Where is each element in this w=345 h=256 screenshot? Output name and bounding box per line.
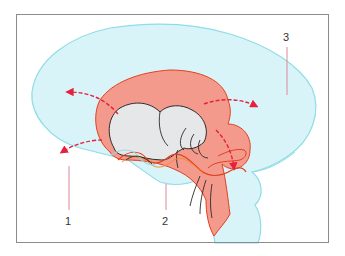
label-2: 2	[162, 216, 168, 227]
label-3: 3	[283, 32, 289, 43]
label-1: 1	[65, 216, 71, 227]
figure-frame	[16, 14, 329, 243]
